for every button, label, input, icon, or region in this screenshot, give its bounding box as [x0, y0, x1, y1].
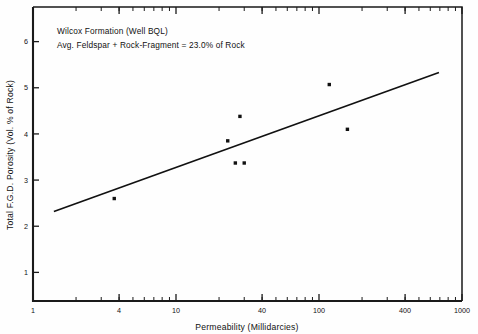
data-point: [113, 197, 116, 200]
data-point: [226, 139, 229, 142]
data-point: [328, 83, 331, 86]
y-tick-label: 3: [24, 176, 28, 185]
data-point: [243, 161, 246, 164]
chart-figure: 1410401004001000 123456 Wilcox Formation…: [0, 0, 478, 334]
x-tick-label: 1: [31, 306, 35, 315]
y-tick-label: 1: [24, 268, 28, 277]
data-point: [234, 161, 237, 164]
x-tick-label: 400: [399, 306, 411, 315]
x-tick-label: 100: [313, 306, 325, 315]
annotation-line-2: Avg. Feldspar + Rock-Fragment = 23.0% of…: [57, 40, 246, 50]
scatter-plot-canvas: 1410401004001000 123456 Wilcox Formation…: [0, 0, 478, 334]
y-tick-label: 4: [24, 130, 28, 139]
y-tick-label: 6: [24, 37, 28, 46]
x-tick-label: 10: [172, 306, 180, 315]
y-tick-label: 5: [24, 83, 28, 92]
y-tick-label: 2: [24, 222, 28, 231]
plot-background: [0, 0, 478, 334]
annotation-line-1: Wilcox Formation (Well BQL): [57, 26, 168, 36]
x-axis-title: Permeability (Millidarcies): [195, 322, 298, 332]
x-tick-label: 1000: [454, 306, 470, 315]
y-axis-title: Total F.G.D. Porosity (Vol. % of Rock): [5, 80, 15, 230]
x-tick-label: 40: [258, 306, 266, 315]
x-tick-label: 4: [117, 306, 121, 315]
data-point: [346, 128, 349, 131]
data-point: [238, 115, 241, 118]
